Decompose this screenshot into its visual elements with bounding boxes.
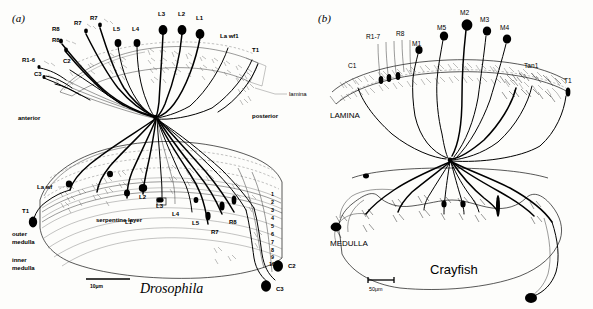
stratum-number: 3 [271,207,274,213]
posterior-label: posterior [252,113,279,119]
label-M3: M3 [480,16,489,23]
label-L4-medulla: L4 [172,211,180,217]
stratum-number: 10 [269,261,275,267]
figure-background [0,0,593,309]
label-L1-medulla: L1 [125,219,133,225]
scale-bar-label-b: 50μm [369,286,383,292]
label-C3: C3 [34,71,42,77]
label-M5: M5 [437,24,446,31]
species-name-drosophila: Drosophila [139,281,203,296]
label-C2: C2 [63,58,71,64]
serpentine-layer-label: serpentine layer [96,217,143,223]
stratum-number: 4 [271,215,274,221]
label-R8-medulla: R8 [229,219,237,225]
label-Tan1: Tan1 [524,62,539,69]
lamina-leader-label: lamina [289,91,307,97]
outer-medulla-line2: medulla [12,239,35,245]
label-C1: C1 [348,62,357,69]
stratum-number: 9 [271,254,274,260]
label-R1-7: R1-7 [366,33,381,40]
label-L2-medulla: L2 [139,194,147,200]
species-name-crayfish: Crayfish [430,262,478,277]
label-M4: M4 [500,24,509,31]
label-R8-upper: R8 [52,26,60,32]
label-M2: M2 [460,9,469,16]
medulla-label-b: MEDULLA [330,239,368,248]
anterior-label: anterior [18,115,41,121]
label-C3-bottom: C3 [276,286,284,292]
inner-medulla-line1: inner [12,257,27,263]
label-T1-medulla: T1 [22,208,30,214]
label-L5: L5 [113,26,121,32]
lamina-label-b: LAMINA [330,111,360,120]
label-R7-left: R7 [74,20,82,26]
inner-medulla-line2: medulla [12,265,35,271]
stratum-number: 7 [271,239,274,245]
label-T1-b: T1 [564,77,572,84]
label-R7-right: R7 [90,15,98,21]
outer-medulla-line1: outer [12,231,28,237]
label-R7-medulla: R7 [211,229,219,235]
label-L3-medulla: L3 [156,203,164,209]
label-R8-lower: R8 [52,37,60,43]
label-M1: M1 [412,40,421,47]
comparative-neuroanatomy-figure: (a) lamina [0,0,593,309]
panel-b-letter: (b) [318,12,331,25]
scale-bar-label-a: 10μm [90,283,104,289]
label-L1: L1 [196,15,204,21]
label-T1-lamina: T1 [252,47,260,53]
label-L5-medulla: L5 [192,220,200,226]
label-L4: L4 [132,26,140,32]
label-L2: L2 [178,11,186,17]
label-L3: L3 [158,11,166,17]
label-R8-b: R8 [396,30,405,37]
label-C2-bottom: C2 [288,263,296,269]
stratum-number: 8 [271,247,274,253]
stratum-number: 5 [271,223,274,229]
label-R1-6: R1-6 [22,57,36,63]
stratum-number: 2 [271,199,274,205]
stratum-number: 1 [271,191,274,197]
stratum-number: 6 [271,231,274,237]
label-La-wf1: La wf1 [220,33,239,39]
label-La-wf: La wf [37,184,53,190]
panel-a-letter: (a) [12,12,25,25]
